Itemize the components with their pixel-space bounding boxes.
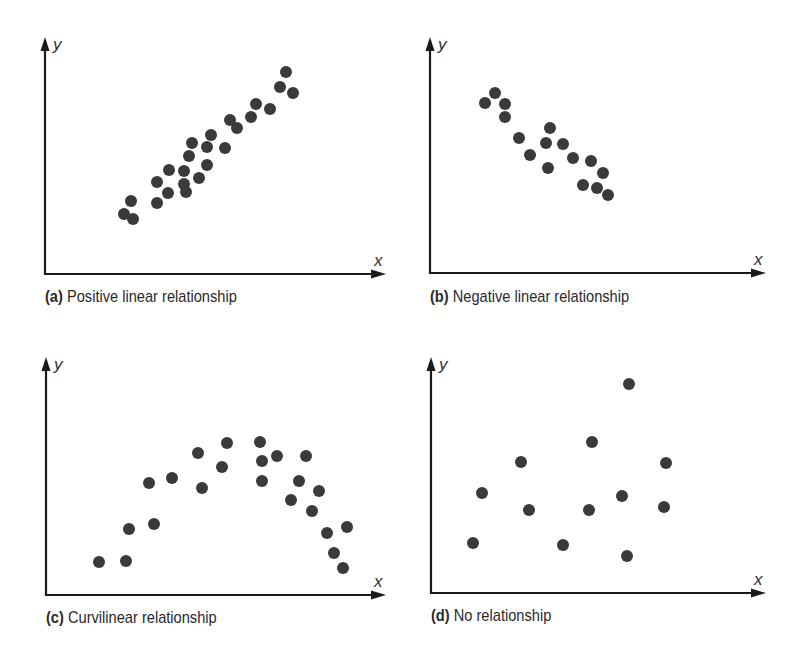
y-axis-label: y bbox=[438, 355, 449, 374]
data-point bbox=[201, 141, 213, 153]
data-point bbox=[93, 556, 105, 568]
caption-c-text: Curvilinear relationship bbox=[68, 608, 217, 627]
caption-a-text: Positive linear relationship bbox=[67, 287, 237, 306]
data-point bbox=[597, 167, 609, 179]
data-point bbox=[567, 152, 579, 164]
data-point bbox=[513, 132, 525, 144]
data-point bbox=[557, 138, 569, 150]
data-point bbox=[591, 182, 603, 194]
data-point bbox=[313, 485, 325, 497]
y-axis-arrow-icon bbox=[41, 37, 50, 51]
panel-b: yx bbox=[426, 35, 767, 278]
caption-c: (c) Curvilinear relationship bbox=[46, 608, 217, 628]
data-point bbox=[196, 482, 208, 494]
data-point bbox=[341, 521, 353, 533]
scatter-figure: yxyxyxyx (a) Positive linear relationshi… bbox=[0, 0, 802, 657]
data-point bbox=[127, 213, 139, 225]
data-point bbox=[151, 176, 163, 188]
x-axis-label: x bbox=[753, 570, 763, 589]
data-point bbox=[293, 475, 305, 487]
data-point bbox=[216, 461, 228, 473]
data-point bbox=[660, 457, 672, 469]
data-point bbox=[585, 155, 597, 167]
data-point bbox=[583, 504, 595, 516]
data-point bbox=[287, 87, 299, 99]
data-point bbox=[328, 547, 340, 559]
data-point bbox=[467, 537, 479, 549]
data-point bbox=[300, 450, 312, 462]
data-point bbox=[254, 436, 266, 448]
y-axis-label: y bbox=[52, 35, 63, 54]
data-point bbox=[221, 437, 233, 449]
data-point bbox=[205, 129, 217, 141]
caption-a: (a) Positive linear relationship bbox=[45, 287, 237, 307]
data-point bbox=[219, 142, 231, 154]
caption-b-label: (b) bbox=[430, 287, 449, 306]
data-point bbox=[577, 179, 589, 191]
data-point bbox=[120, 555, 132, 567]
data-point bbox=[123, 523, 135, 535]
data-point bbox=[163, 164, 175, 176]
data-point bbox=[623, 378, 635, 390]
data-point bbox=[180, 186, 192, 198]
caption-b-text: Negative linear relationship bbox=[453, 287, 629, 306]
data-point bbox=[542, 162, 554, 174]
data-point bbox=[231, 122, 243, 134]
data-point bbox=[321, 527, 333, 539]
data-point bbox=[523, 504, 535, 516]
data-point bbox=[125, 195, 137, 207]
data-point bbox=[476, 487, 488, 499]
data-point bbox=[143, 477, 155, 489]
data-point bbox=[499, 98, 511, 110]
data-point bbox=[264, 103, 276, 115]
data-point bbox=[524, 149, 536, 161]
panel-d: yx bbox=[427, 355, 767, 598]
caption-d-label: (d) bbox=[431, 606, 450, 625]
data-point bbox=[183, 150, 195, 162]
data-point bbox=[166, 472, 178, 484]
data-point bbox=[489, 87, 501, 99]
data-point bbox=[162, 187, 174, 199]
data-point bbox=[285, 494, 297, 506]
x-axis-arrow-icon bbox=[371, 591, 386, 600]
y-axis-label: y bbox=[53, 355, 64, 374]
data-point bbox=[256, 455, 268, 467]
y-axis-label: y bbox=[437, 35, 448, 54]
x-axis-label: x bbox=[373, 251, 383, 270]
y-axis-arrow-icon bbox=[427, 357, 436, 371]
data-point bbox=[540, 137, 552, 149]
x-axis-label: x bbox=[373, 572, 383, 591]
data-point bbox=[274, 81, 286, 93]
panel-c: yx bbox=[42, 355, 387, 600]
data-point bbox=[658, 501, 670, 513]
data-point bbox=[586, 436, 598, 448]
data-point bbox=[193, 172, 205, 184]
data-point bbox=[280, 66, 292, 78]
data-point bbox=[245, 111, 257, 123]
data-point bbox=[250, 98, 262, 110]
y-axis-arrow-icon bbox=[42, 357, 51, 371]
data-point bbox=[201, 159, 213, 171]
data-point bbox=[499, 111, 511, 123]
x-axis-arrow-icon bbox=[751, 589, 766, 598]
data-point bbox=[306, 505, 318, 517]
data-point bbox=[515, 456, 527, 468]
caption-d: (d) No relationship bbox=[431, 606, 551, 626]
data-point bbox=[602, 189, 614, 201]
panel-a: yx bbox=[41, 35, 387, 279]
data-point bbox=[616, 490, 628, 502]
data-point bbox=[151, 197, 163, 209]
data-point bbox=[544, 122, 556, 134]
scatter-plots-canvas: yxyxyxyx bbox=[0, 0, 802, 657]
x-axis-label: x bbox=[753, 250, 763, 269]
data-point bbox=[557, 539, 569, 551]
caption-a-label: (a) bbox=[45, 287, 63, 306]
data-point bbox=[178, 165, 190, 177]
data-point bbox=[192, 447, 204, 459]
x-axis-arrow-icon bbox=[371, 270, 386, 279]
y-axis-arrow-icon bbox=[426, 37, 435, 51]
data-point bbox=[479, 97, 491, 109]
data-point bbox=[621, 550, 633, 562]
caption-d-text: No relationship bbox=[454, 606, 552, 625]
x-axis-arrow-icon bbox=[751, 269, 766, 278]
